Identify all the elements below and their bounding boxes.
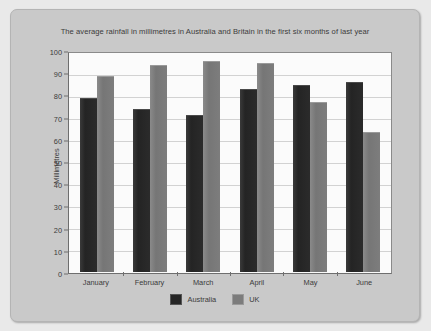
y-tick-label: 50 — [54, 159, 62, 168]
y-tick-label: 100 — [50, 48, 62, 57]
y-tick-mark — [64, 229, 68, 230]
plot-wrapper: 0102030405060708090100 JanuaryFebruaryMa… — [68, 52, 392, 274]
bar-group — [337, 54, 390, 272]
chart-title: The average rainfall in millimetres in A… — [11, 27, 419, 36]
legend-label: UK — [249, 295, 259, 304]
x-tick-label-january: January — [69, 278, 123, 287]
bar-groups — [70, 54, 390, 272]
legend-item-uk[interactable]: UK — [232, 294, 259, 305]
chart-legend: AustraliaUK — [11, 294, 419, 305]
screenshot-root: The average rainfall in millimetres in A… — [0, 0, 431, 331]
bar-australia-january[interactable] — [80, 98, 97, 272]
bar-uk-january[interactable] — [97, 76, 114, 272]
y-tick-label: 20 — [54, 225, 62, 234]
y-tick-label: 0 — [58, 270, 62, 279]
bar-australia-april[interactable] — [240, 89, 257, 272]
y-tick-mark — [64, 185, 68, 186]
legend-item-australia[interactable]: Australia — [170, 294, 216, 305]
bar-uk-june[interactable] — [363, 132, 380, 272]
y-tick-label: 10 — [54, 247, 62, 256]
bar-group — [230, 54, 283, 272]
x-tick-mark — [230, 272, 231, 276]
bar-group — [70, 54, 123, 272]
plot-area — [68, 52, 392, 274]
x-tick-label-june: June — [337, 278, 391, 287]
x-tick-mark — [283, 272, 284, 276]
australia-swatch — [170, 294, 182, 305]
y-tick-label: 40 — [54, 181, 62, 190]
bar-group — [177, 54, 230, 272]
y-tick-mark — [64, 274, 68, 275]
bar-australia-march[interactable] — [186, 115, 203, 272]
x-tick-mark — [123, 272, 124, 276]
y-tick-label: 70 — [54, 114, 62, 123]
bar-australia-may[interactable] — [293, 85, 310, 272]
bar-uk-april[interactable] — [257, 63, 274, 272]
uk-swatch — [232, 294, 244, 305]
y-tick-label: 30 — [54, 203, 62, 212]
x-tick-label-february: February — [123, 278, 177, 287]
bar-group — [123, 54, 176, 272]
x-tick-mark — [337, 272, 338, 276]
bar-group — [283, 54, 336, 272]
y-tick-mark — [64, 52, 68, 53]
x-tick-mark — [177, 272, 178, 276]
legend-label: Australia — [187, 295, 216, 304]
y-tick-label: 60 — [54, 136, 62, 145]
chart-panel: The average rainfall in millimetres in A… — [10, 9, 420, 322]
y-tick-mark — [64, 140, 68, 141]
y-tick-mark — [64, 251, 68, 252]
y-tick-mark — [64, 74, 68, 75]
y-tick-label: 90 — [54, 70, 62, 79]
x-axis-labels: JanuaryFebruaryMarchAprilMayJune — [69, 278, 391, 287]
y-tick-mark — [64, 207, 68, 208]
x-tick-label-march: March — [176, 278, 230, 287]
y-tick-mark — [64, 96, 68, 97]
y-tick-mark — [64, 163, 68, 164]
y-tick-mark — [64, 118, 68, 119]
bar-australia-february[interactable] — [133, 109, 150, 273]
x-tick-label-april: April — [230, 278, 284, 287]
bar-australia-june[interactable] — [346, 82, 363, 272]
bar-uk-may[interactable] — [310, 102, 327, 272]
y-tick-label: 80 — [54, 92, 62, 101]
bar-uk-february[interactable] — [150, 65, 167, 272]
bar-uk-march[interactable] — [203, 61, 220, 272]
x-tick-label-may: May — [284, 278, 338, 287]
